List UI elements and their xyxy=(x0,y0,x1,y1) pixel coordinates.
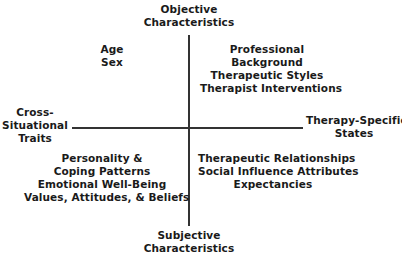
axis-label-line: Situational xyxy=(0,119,70,132)
axis-label-cross-situational: Cross- Situational Traits xyxy=(0,106,70,145)
axis-label-line: Objective xyxy=(139,3,239,16)
quadrant-item: Expectancies xyxy=(198,178,348,191)
axis-label-line: Characteristics xyxy=(139,242,239,255)
axis-label-line: Characteristics xyxy=(139,16,239,29)
quadrant-item: Sex xyxy=(82,56,142,69)
axis-label-objective: Objective Characteristics xyxy=(139,3,239,29)
quadrant-item: Age xyxy=(82,43,142,56)
quadrant-item: Personality & xyxy=(24,152,180,165)
axis-label-line: Traits xyxy=(0,132,70,145)
quadrant-bottom-right: Therapeutic Relationships Social Influen… xyxy=(198,152,348,191)
quadrant-item: Background xyxy=(200,56,334,69)
axis-label-line: Subjective xyxy=(139,229,239,242)
axis-label-therapy-specific: Therapy-Specific States xyxy=(306,114,402,140)
quadrant-top-right: Professional Background Therapeutic Styl… xyxy=(200,43,334,95)
quadrant-item: Therapeutic Relationships xyxy=(198,152,348,165)
quadrant-item: Coping Patterns xyxy=(24,165,180,178)
axis-label-line: Cross- xyxy=(0,106,70,119)
quadrant-item: Values, Attitudes, & Beliefs xyxy=(24,191,180,204)
quadrant-item: Therapeutic Styles xyxy=(200,69,334,82)
horizontal-axis-line xyxy=(72,127,303,129)
axis-label-line: Therapy-Specific xyxy=(306,114,402,127)
axis-label-subjective: Subjective Characteristics xyxy=(139,229,239,255)
quadrant-top-left: Age Sex xyxy=(82,43,142,69)
quadrant-bottom-left: Personality & Coping Patterns Emotional … xyxy=(24,152,180,204)
quadrant-item: Professional xyxy=(200,43,334,56)
axis-label-line: States xyxy=(306,127,402,140)
quadrant-item: Therapist Interventions xyxy=(200,82,334,95)
quadrant-item: Emotional Well-Being xyxy=(24,178,180,191)
quadrant-item: Social Influence Attributes xyxy=(198,165,348,178)
